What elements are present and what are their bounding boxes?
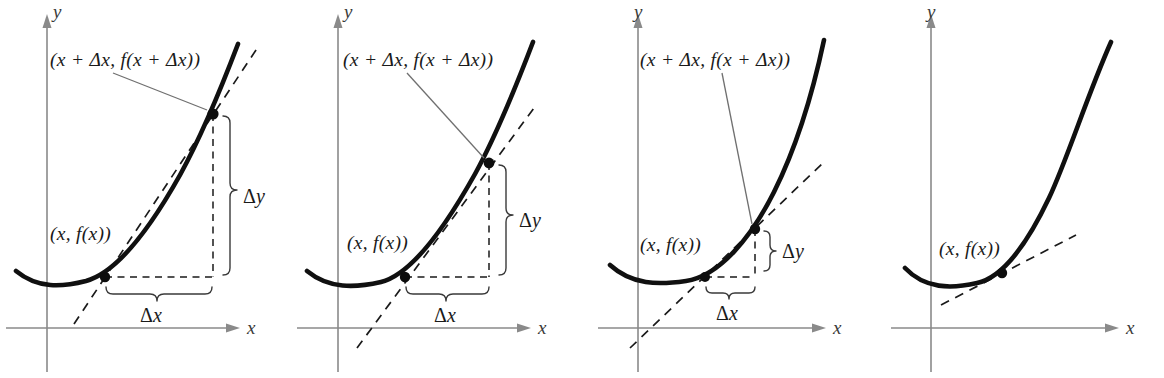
delta-y-brace [223, 116, 237, 275]
x-axis-label: x [1125, 317, 1135, 338]
point-p-label: (x, f(x)) [50, 223, 111, 245]
point-p-marker [997, 268, 1007, 278]
point-p-label: (x, f(x)) [347, 232, 408, 254]
x-axis-label: x [246, 317, 256, 338]
x-axis-arrow-icon [1105, 324, 1119, 333]
derivative-secant-tangent-figure: y x Δy Δx (x + Δx, f(x + Δx)) (x, [0, 0, 1164, 378]
delta-x-brace [406, 287, 489, 301]
y-axis-arrow-icon [334, 14, 343, 28]
y-axis-label: y [342, 1, 353, 22]
point-p-marker [700, 272, 710, 282]
delta-x-label: Δx [434, 304, 456, 326]
point-p-marker [100, 272, 110, 282]
y-axis-label: y [632, 1, 643, 22]
panel-1: y x Δy Δx (x + Δx, f(x + Δx)) (x, [0, 0, 291, 378]
delta-y-brace [499, 165, 513, 275]
q-label-leader-line [722, 73, 752, 224]
delta-y-label: Δy [243, 185, 265, 208]
q-label-leader-line [113, 73, 207, 110]
point-p-marker [400, 272, 410, 282]
delta-x-label: Δx [716, 302, 738, 324]
x-axis-arrow-icon [812, 324, 826, 333]
point-q-label: (x + Δx, f(x + Δx)) [343, 49, 493, 71]
point-p-label: (x, f(x)) [939, 238, 1000, 260]
point-q-label: (x + Δx, f(x + Δx)) [640, 49, 790, 71]
x-axis-arrow-icon [226, 324, 240, 333]
q-label-leader-line [407, 73, 484, 158]
y-axis-arrow-icon [43, 14, 52, 28]
point-q-label: (x + Δx, f(x + Δx)) [50, 49, 200, 71]
x-axis-label: x [537, 317, 547, 338]
function-curve [905, 42, 1111, 286]
function-curve [307, 42, 533, 286]
x-axis-label: x [832, 317, 842, 338]
x-axis-arrow-icon [517, 324, 531, 333]
point-q-marker [207, 108, 218, 119]
delta-y-label: Δy [782, 240, 804, 263]
y-axis-label: y [51, 1, 62, 22]
delta-x-brace [106, 287, 212, 301]
panel-4: y x (x, f(x)) [873, 0, 1164, 378]
panel-3: y x Δy Δx (x + Δx, f(x + Δx)) (x, f(x)) [582, 0, 873, 378]
panel-2: y x Δy Δx (x + Δx, f(x + Δx)) (x, f(x)) [291, 0, 582, 378]
delta-x-brace [706, 287, 755, 299]
function-curve [16, 44, 238, 285]
point-q-marker [750, 224, 760, 234]
y-axis-label: y [925, 1, 936, 22]
delta-x-label: Δx [140, 304, 162, 326]
delta-y-brace [764, 231, 776, 271]
point-q-marker [484, 158, 495, 169]
delta-y-label: Δy [519, 209, 541, 232]
point-p-label: (x, f(x)) [640, 234, 701, 256]
